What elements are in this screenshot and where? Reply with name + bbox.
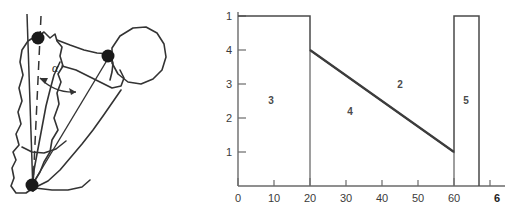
medial-shaft-contour: [36, 90, 121, 187]
femoral-head-outline: [112, 27, 166, 84]
anatomy-diagram-panel: α: [0, 0, 225, 218]
x-axis-end-label: 6: [494, 192, 500, 204]
region-label-3: 3: [268, 95, 274, 106]
chart-svg: 1 4 3 2 1 0 10 20 30 40 50 60: [225, 0, 510, 218]
femoral-neck-superior-border: [57, 40, 110, 54]
x-tick-label-50: 50: [412, 192, 424, 204]
x-tick-label-0: 0: [235, 192, 241, 204]
anatomy-diagram-svg: α: [0, 0, 225, 218]
profile-diagonal-segment: [310, 50, 454, 152]
angle-alpha-label: α: [52, 61, 59, 75]
proximal-femur-outline: [34, 32, 63, 182]
region-label-2: 2: [397, 79, 403, 90]
x-tick-label-20: 20: [304, 192, 316, 204]
distal-shaft-marker: [26, 179, 39, 192]
y-tick-label-top: 1: [226, 10, 232, 22]
x-tick-label-10: 10: [268, 192, 280, 204]
x-tick-marks: [238, 178, 490, 186]
angle-arc-arrowhead-right: [69, 88, 76, 95]
region-label-4: 4: [347, 106, 353, 117]
x-tick-label-60: 60: [448, 192, 460, 204]
y-tick-marks: [238, 16, 246, 152]
x-tick-label-30: 30: [340, 192, 352, 204]
region-label-5: 5: [463, 95, 469, 106]
y-tick-label-2: 2: [226, 112, 232, 124]
femoral-head-marker: [102, 50, 115, 63]
greater-trochanter-marker: [32, 32, 45, 45]
angle-arc-arrowhead-left: [40, 78, 48, 84]
y-tick-label-3: 3: [226, 78, 232, 90]
y-tick-label-4: 4: [226, 44, 232, 56]
x-tick-label-40: 40: [376, 192, 388, 204]
inner-cortical-line: [22, 141, 66, 153]
profile-series-line: [238, 16, 479, 186]
chart-panel: 1 4 3 2 1 0 10 20 30 40 50 60: [225, 0, 510, 218]
figure-root: α 1 4 3 2 1: [0, 0, 510, 218]
y-tick-label-1: 1: [226, 146, 232, 158]
distal-condyle-outline: [35, 180, 90, 190]
